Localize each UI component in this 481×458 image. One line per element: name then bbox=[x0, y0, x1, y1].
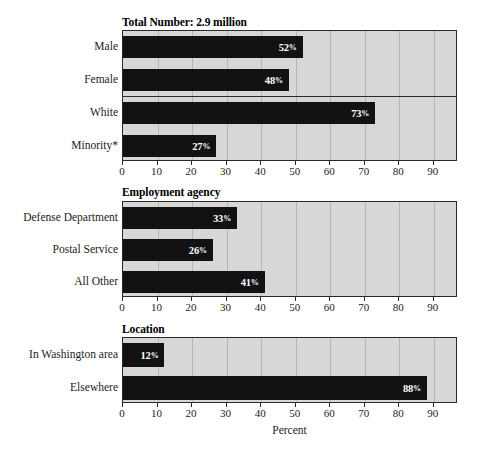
category-label: Postal Service bbox=[53, 243, 118, 255]
axis-tick-label: 40 bbox=[255, 407, 266, 419]
category-label: All Other bbox=[74, 275, 118, 287]
axis-tick-label: 60 bbox=[324, 301, 335, 313]
axis-tick-label: 10 bbox=[151, 165, 162, 177]
axis-tick-label: 40 bbox=[255, 301, 266, 313]
gridline bbox=[330, 202, 331, 296]
gridline bbox=[399, 202, 400, 296]
panel-title: Location bbox=[122, 323, 165, 335]
category-label: Minority* bbox=[71, 139, 118, 151]
bar: 33% bbox=[123, 207, 237, 229]
axis-tick-label: 70 bbox=[358, 407, 369, 419]
category-label: Male bbox=[94, 40, 118, 52]
category-label: Defense Department bbox=[23, 211, 118, 223]
gridline bbox=[365, 202, 366, 296]
axis-tick-label: 90 bbox=[427, 301, 438, 313]
axis-tick-label: 90 bbox=[427, 165, 438, 177]
axis-tick-label: 0 bbox=[119, 301, 125, 313]
bar-value-label: 52% bbox=[279, 42, 297, 53]
plot-area: 12%88% bbox=[122, 337, 457, 403]
axis-tick-label: 30 bbox=[220, 407, 231, 419]
x-axis: 0102030405060708090 bbox=[122, 161, 457, 181]
plot-area: 33%26%41% bbox=[122, 201, 457, 297]
gridline bbox=[296, 202, 297, 296]
x-axis: 0102030405060708090 bbox=[122, 403, 457, 423]
bar: 26% bbox=[123, 239, 213, 261]
axis-tick-label: 10 bbox=[151, 407, 162, 419]
x-axis: 0102030405060708090 bbox=[122, 297, 457, 317]
axis-tick-label: 30 bbox=[220, 165, 231, 177]
bar: 27% bbox=[123, 135, 216, 157]
gridline bbox=[434, 202, 435, 296]
bar: 12% bbox=[123, 343, 164, 367]
bar-value-label: 27% bbox=[192, 140, 210, 151]
category-label: Elsewhere bbox=[70, 381, 118, 393]
axis-tick-label: 0 bbox=[119, 407, 125, 419]
bar: 41% bbox=[123, 271, 265, 293]
bar-value-label: 33% bbox=[213, 213, 231, 224]
axis-tick-label: 30 bbox=[220, 301, 231, 313]
grouped-bar-chart: Total Number: 2.9 million52%48%73%27%Mal… bbox=[0, 0, 481, 458]
gridline bbox=[434, 338, 435, 402]
panel-title: Employment agency bbox=[122, 186, 220, 198]
axis-tick-label: 50 bbox=[289, 301, 300, 313]
axis-tick-label: 80 bbox=[393, 301, 404, 313]
bar-value-label: 73% bbox=[351, 107, 369, 118]
axis-tick-label: 20 bbox=[186, 407, 197, 419]
bar-value-label: 41% bbox=[241, 277, 259, 288]
category-label: Female bbox=[84, 73, 118, 85]
bar: 73% bbox=[123, 102, 375, 124]
bar-value-label: 26% bbox=[189, 245, 207, 256]
axis-tick-label: 70 bbox=[358, 301, 369, 313]
bar-value-label: 48% bbox=[265, 75, 283, 86]
panel-title: Total Number: 2.9 million bbox=[122, 16, 247, 28]
category-label: In Washington area bbox=[29, 348, 118, 360]
bar: 52% bbox=[123, 36, 303, 58]
axis-tick-label: 0 bbox=[119, 165, 125, 177]
axis-tick-label: 90 bbox=[427, 407, 438, 419]
category-label: White bbox=[90, 106, 118, 118]
axis-tick-label: 50 bbox=[289, 165, 300, 177]
bar: 88% bbox=[123, 376, 427, 400]
axis-tick-label: 60 bbox=[324, 407, 335, 419]
x-axis-label: Percent bbox=[122, 424, 457, 436]
bar: 48% bbox=[123, 69, 289, 91]
axis-tick-label: 50 bbox=[289, 407, 300, 419]
axis-tick-label: 20 bbox=[186, 301, 197, 313]
axis-tick-label: 20 bbox=[186, 165, 197, 177]
bar-value-label: 88% bbox=[403, 382, 421, 393]
plot-area: 52%48%73%27% bbox=[122, 30, 457, 161]
axis-tick-label: 70 bbox=[358, 165, 369, 177]
axis-tick-label: 80 bbox=[393, 165, 404, 177]
panel-separator bbox=[123, 96, 456, 97]
axis-tick-label: 40 bbox=[255, 165, 266, 177]
axis-tick-label: 10 bbox=[151, 301, 162, 313]
bar-value-label: 12% bbox=[141, 349, 159, 360]
axis-tick-label: 80 bbox=[393, 407, 404, 419]
axis-tick-label: 60 bbox=[324, 165, 335, 177]
